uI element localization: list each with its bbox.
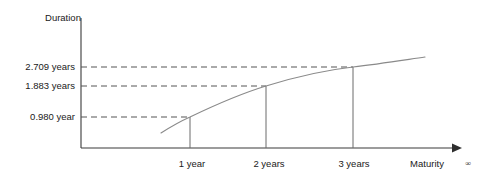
x-tick-label-2-years: 2 years bbox=[253, 158, 284, 169]
y-axis-title: Duration bbox=[45, 12, 81, 23]
y-tick-label-1883: 1.883 years bbox=[25, 80, 75, 91]
x-tick-label-1-year: 1 year bbox=[179, 158, 205, 169]
x-axis-title-maturity: Maturity bbox=[410, 158, 444, 169]
x-tick-label-3-years: 3 years bbox=[338, 158, 369, 169]
x-axis-arrow-icon bbox=[452, 144, 462, 153]
duration-curve bbox=[161, 57, 425, 133]
infinity-symbol-icon: ∞ bbox=[465, 159, 471, 168]
duration-maturity-chart: Duration 2.709 years 1.883 years 0.980 y… bbox=[0, 0, 484, 182]
y-tick-label-2709: 2.709 years bbox=[25, 61, 75, 72]
y-tick-label-0980: 0.980 year bbox=[30, 111, 75, 122]
chart-canvas: Duration 2.709 years 1.883 years 0.980 y… bbox=[0, 0, 484, 182]
